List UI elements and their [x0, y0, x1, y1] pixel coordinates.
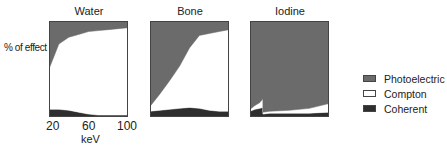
legend-label-photoelectric: Photoelectric — [384, 73, 445, 85]
stacked-area-water — [49, 21, 128, 117]
x-tick-60: 60 — [82, 119, 95, 133]
y-axis-label: % of effect — [4, 42, 47, 53]
chart-panel-bone — [150, 21, 229, 117]
x-tick-20: 20 — [46, 119, 59, 133]
panel-title-water: Water — [49, 5, 129, 17]
legend-swatch-photoelectric — [363, 75, 376, 82]
panel-title-iodine: Iodine — [250, 5, 330, 17]
x-tick-100: 100 — [117, 119, 137, 133]
legend-swatch-compton — [363, 90, 376, 97]
legend-item-photoelectric: Photoelectric — [363, 71, 445, 86]
panel-title-bone: Bone — [150, 5, 230, 17]
stacked-area-bone — [150, 21, 229, 117]
legend-item-compton: Compton — [363, 86, 445, 101]
chart-panel-water — [49, 21, 128, 117]
x-axis-label: keV — [81, 133, 100, 145]
chart-panel-iodine — [250, 21, 329, 117]
legend: Photoelectric Compton Coherent — [363, 71, 445, 116]
legend-swatch-coherent — [363, 105, 376, 112]
area-photoelectric — [250, 21, 329, 112]
legend-label-coherent: Coherent — [384, 103, 427, 115]
stacked-area-iodine — [250, 21, 329, 117]
legend-item-coherent: Coherent — [363, 101, 445, 116]
legend-label-compton: Compton — [384, 88, 427, 100]
